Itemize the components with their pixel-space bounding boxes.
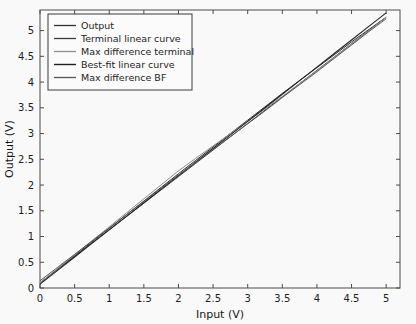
figure-canvas: 00.511.522.533.544.55 00.511.522.533.544… [0,0,416,324]
linearity-plot: 00.511.522.533.544.55 00.511.522.533.544… [0,0,416,324]
scan-texture [0,0,416,324]
